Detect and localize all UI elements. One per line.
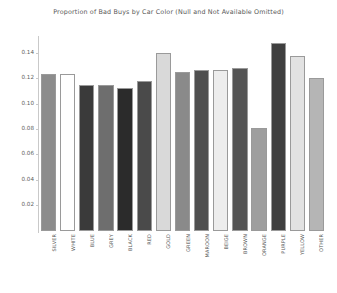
x-axis-label: RED [146,234,152,245]
bar-slot [79,38,94,231]
bar [117,88,132,231]
bar [290,56,305,231]
x-axis-label: BEIGE [223,234,229,250]
y-tick-label: 0.06 [22,150,34,156]
chart-title: Proportion of Bad Buys by Car Color (Nul… [0,8,337,16]
x-axis-label: PURPLE [280,234,286,254]
bar [79,85,94,231]
y-tick-label: 0.10 [22,100,34,106]
x-axis-label: GREEN [185,234,191,252]
bar-slot [290,38,305,231]
bar [271,43,286,231]
bar-slot [175,38,190,231]
bar [41,74,56,231]
y-tick-label: 0.02 [22,201,34,207]
x-axis-label: GREY [108,234,114,248]
bar [309,78,324,231]
bar [232,68,247,231]
y-tick-label: 0.08 [22,125,34,131]
bar-slot [213,38,228,231]
x-axis-label: BLUE [89,234,95,247]
x-axis-label: BROWN [242,234,248,254]
x-axis-label: BLACK [127,234,133,251]
bar [156,53,171,231]
x-axis-label: YELLOW [299,234,305,255]
bar-slot [117,38,132,231]
bar [175,72,190,231]
x-axis-label: WHITE [70,234,76,251]
bar-slot [137,38,152,231]
bar-chart-figure: Proportion of Bad Buys by Car Color (Nul… [0,0,337,293]
bar-slot [271,38,286,231]
bar-slot [60,38,75,231]
bar-slot [309,38,324,231]
bar-slot [41,38,56,231]
bar [213,70,228,231]
x-axis-label: ORANGE [261,234,267,256]
x-axis-label: OTHER [318,234,324,252]
y-tick-label: 0.04 [22,176,34,182]
bar-slot [194,38,209,231]
y-tick-label: 0.14 [22,49,34,55]
bar [194,70,209,231]
bar-slot [156,38,171,231]
y-tick-label: 0.12 [22,74,34,80]
x-axis-label: GOLD [165,234,171,249]
bar [137,81,152,231]
x-axis-label: SILVER [51,234,57,252]
bar [98,85,113,231]
x-axis-label: MAROON [204,234,210,257]
bar-series [39,38,326,231]
bar [60,74,75,231]
bar-slot [251,38,266,231]
bar-slot [98,38,113,231]
bar [251,128,266,231]
bar-slot [232,38,247,231]
